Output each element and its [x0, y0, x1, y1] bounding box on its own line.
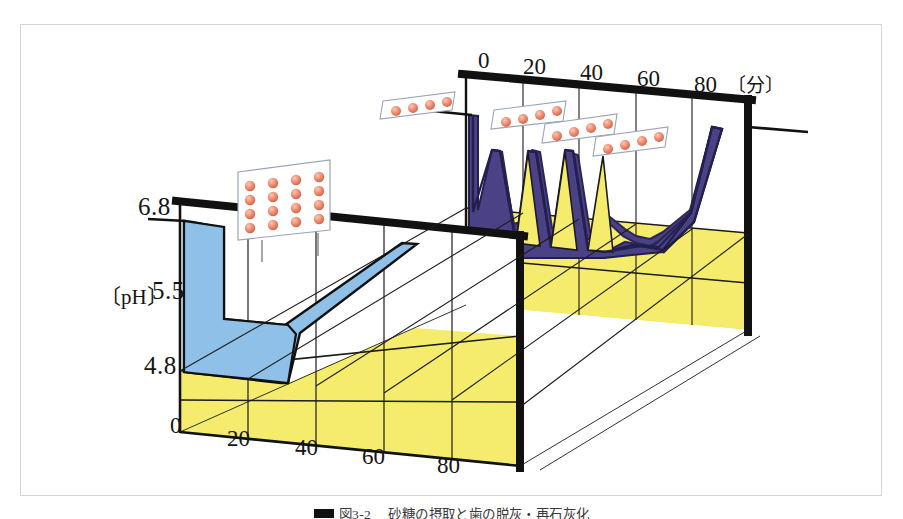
front-panel [148, 201, 524, 468]
figure-root: 6.8 〔pH〕 5.5 4.8 0 20 40 60 80 0 20 40 6… [0, 0, 903, 519]
y-axis-tick-5-5: 5.5 [152, 277, 185, 305]
front-x-tick-80: 80 [437, 453, 460, 479]
figure-caption-text: 図3-2 砂糖の摂取と歯の脱灰・再石灰化 [339, 507, 590, 519]
back-x-tick-0: 0 [478, 48, 490, 74]
front-x-tick-60: 60 [362, 444, 385, 470]
figure-caption: 図3-2 砂糖の摂取と歯の脱灰・再石灰化 [0, 503, 903, 519]
front-x-tick-0: 0 [170, 413, 182, 439]
back-x-tick-20: 20 [523, 54, 546, 80]
x-axis-unit-label: 〔分〕 [727, 70, 784, 97]
caption-legend-swatch [314, 509, 334, 518]
y-axis-tick-4-8: 4.8 [144, 352, 177, 380]
front-x-tick-20: 20 [227, 426, 250, 452]
back-x-tick-60: 60 [637, 66, 660, 92]
y-axis-tick-6-8: 6.8 [138, 193, 171, 221]
back-x-tick-80: 80 [694, 72, 717, 98]
floating-sugar-box [380, 92, 455, 119]
back-x-tick-40: 40 [580, 60, 603, 86]
front-x-tick-40: 40 [295, 435, 318, 461]
